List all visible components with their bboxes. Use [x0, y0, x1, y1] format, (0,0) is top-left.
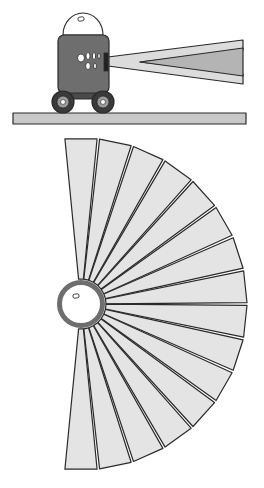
- sensor-hole: [86, 53, 90, 60]
- ground-surface: [13, 113, 246, 124]
- sensor-hole: [98, 53, 100, 59]
- sensor-fan-top-view: [60, 139, 248, 469]
- wheel-axle: [101, 100, 106, 105]
- sensor-hole: [92, 53, 95, 60]
- sensor-hole: [78, 54, 85, 62]
- wheel: [92, 91, 114, 113]
- robot-body: [58, 35, 109, 93]
- robot-outline-ring: [60, 283, 103, 326]
- ring-marker-icon: [73, 294, 80, 299]
- wheel: [52, 91, 74, 113]
- robot-side-view: [13, 13, 246, 124]
- dome-marker-icon: [78, 17, 85, 22]
- sensor-hole: [94, 63, 97, 69]
- diagram-canvas: [0, 0, 264, 488]
- beam-emitter: [104, 53, 108, 71]
- robot-dome: [63, 13, 103, 35]
- sensor-hole: [86, 63, 91, 70]
- wheel-axle: [61, 100, 66, 105]
